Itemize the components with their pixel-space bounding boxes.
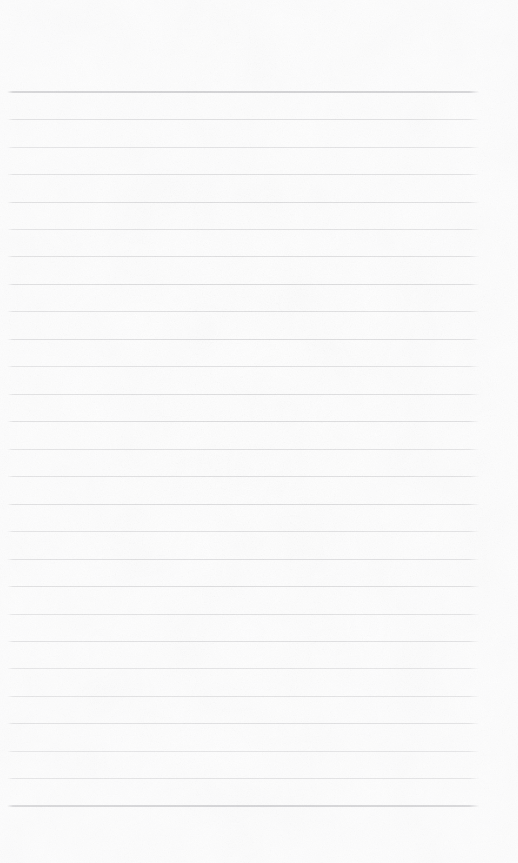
ruled-line <box>7 476 479 477</box>
ruled-line <box>7 394 479 395</box>
ruled-line <box>7 147 479 148</box>
ruled-line <box>7 641 479 642</box>
ruled-line <box>7 751 479 752</box>
ruled-line <box>7 531 479 532</box>
ruled-line <box>7 229 479 230</box>
ruled-line <box>7 696 479 697</box>
ruled-lines-layer <box>0 0 518 863</box>
ruled-line <box>7 311 479 312</box>
ruled-line <box>7 366 479 367</box>
ruled-line <box>7 805 479 807</box>
ruled-line <box>7 723 479 724</box>
ruled-line <box>7 778 479 779</box>
ruled-line <box>7 339 479 340</box>
ruled-line <box>7 504 479 505</box>
ruled-line <box>7 174 479 175</box>
ruled-line <box>7 668 479 669</box>
ruled-line <box>7 91 479 93</box>
ruled-line <box>7 586 479 587</box>
ruled-line <box>7 284 479 285</box>
ruled-line <box>7 449 479 450</box>
ruled-line <box>7 614 479 615</box>
ruled-line <box>7 421 479 422</box>
ruled-line <box>7 559 479 560</box>
ruled-line <box>7 119 479 120</box>
notebook-page <box>0 0 518 863</box>
ruled-line <box>7 202 479 203</box>
ruled-line <box>7 256 479 257</box>
